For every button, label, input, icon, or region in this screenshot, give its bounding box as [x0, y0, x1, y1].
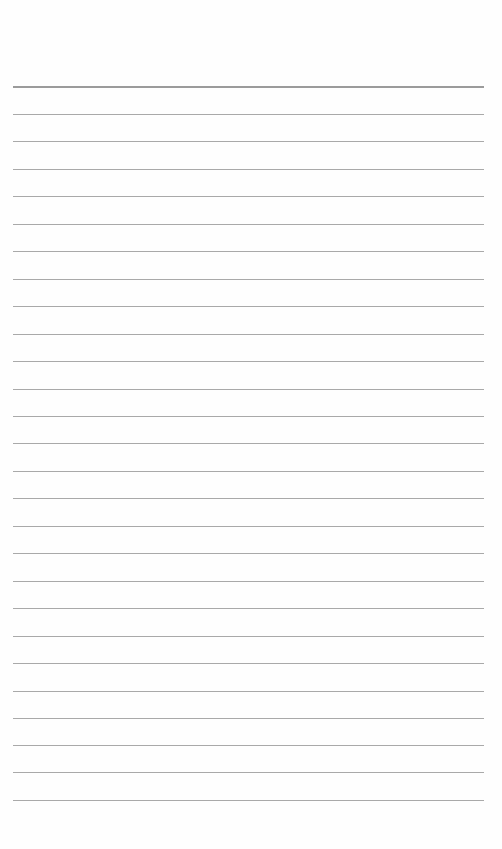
rule-line — [13, 251, 484, 252]
rule-line — [13, 224, 484, 225]
rule-line — [13, 608, 484, 609]
rule-line — [13, 279, 484, 280]
rule-line — [13, 772, 484, 773]
rule-line — [13, 800, 484, 801]
rule-line — [13, 498, 484, 499]
rule-line — [13, 416, 484, 417]
rule-line — [13, 745, 484, 746]
rule-line — [13, 361, 484, 362]
rule-line — [13, 718, 484, 719]
rule-line — [13, 389, 484, 390]
rule-line — [13, 581, 484, 582]
rule-line — [13, 443, 484, 444]
lined-paper-page — [0, 0, 502, 849]
rule-line — [13, 691, 484, 692]
rule-line — [13, 471, 484, 472]
rule-line — [13, 526, 484, 527]
rule-line — [13, 141, 484, 142]
rule-line — [13, 306, 484, 307]
rule-line — [13, 334, 484, 335]
rule-line — [13, 114, 484, 115]
rule-line — [13, 636, 484, 637]
header-rule-line — [13, 86, 484, 88]
rule-line — [13, 169, 484, 170]
rule-line — [13, 553, 484, 554]
rule-line — [13, 196, 484, 197]
rule-line — [13, 663, 484, 664]
